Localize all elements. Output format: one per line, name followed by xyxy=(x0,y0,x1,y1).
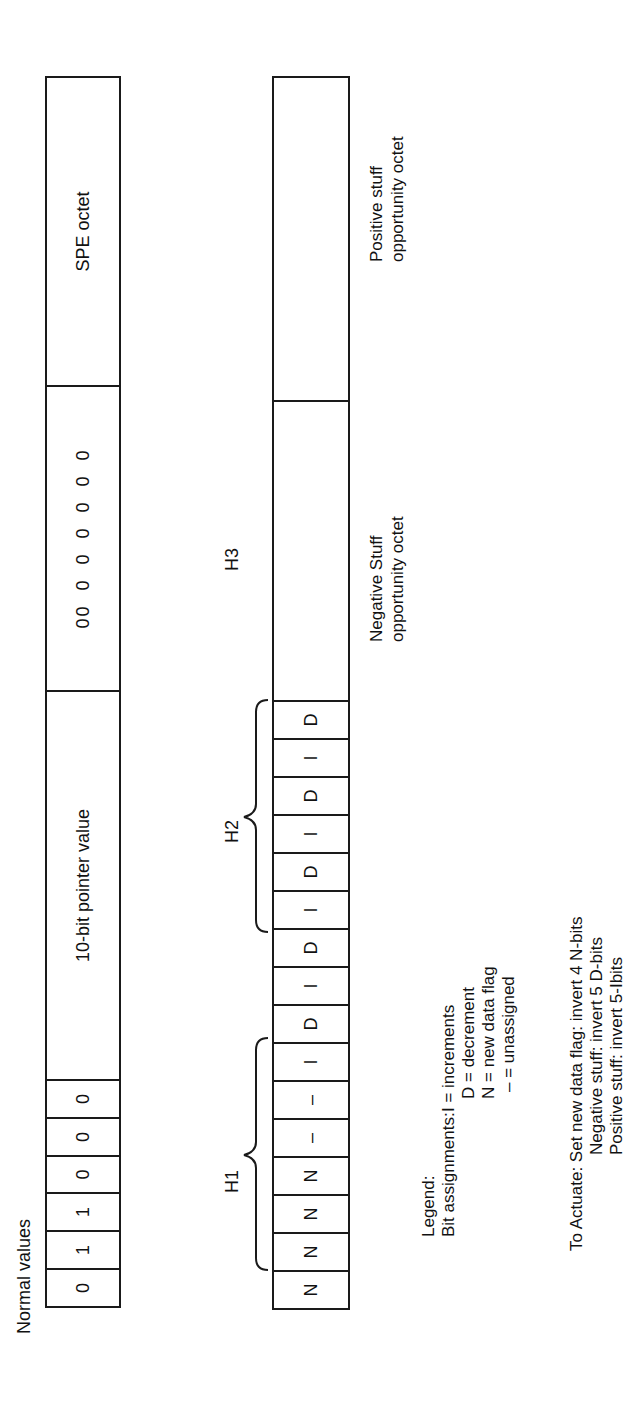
bit-cell: D xyxy=(274,700,348,738)
bit-cell: I xyxy=(274,738,348,776)
h2-brace-icon xyxy=(240,694,270,934)
bit-cell: I xyxy=(274,890,348,928)
legend-item: I = increments xyxy=(438,1005,459,1112)
bit-cell: D xyxy=(274,928,348,966)
legend-item: N = new data flag xyxy=(478,966,499,1099)
h1-h2-h3-row: N N N N – – I D I D I D I D I D xyxy=(272,76,350,1310)
zeros-cell: 00 0 0 0 0 0 0 xyxy=(47,385,119,690)
bit-cell: I xyxy=(274,814,348,852)
positive-stuff-label: Positive stuff opportunity octet xyxy=(366,136,408,262)
bit-cell: N xyxy=(274,1156,348,1194)
bit-cell: D xyxy=(274,1004,348,1042)
legend-item: – = unassigned xyxy=(498,976,519,1092)
negative-stuff-label: Negative Stuff opportunity octet xyxy=(366,516,408,642)
positive-stuff-cell xyxy=(274,78,348,400)
legend-bit-assignments: Bit assignments: xyxy=(438,1112,459,1237)
bit-cell: D xyxy=(274,776,348,814)
bit-cell: 0 xyxy=(47,1268,119,1306)
bit-cell: D xyxy=(274,852,348,890)
legend-item: D = decrement xyxy=(458,987,479,1099)
bit-cell: N xyxy=(274,1232,348,1270)
actuate-line-2: Negative stuff: invert 5 D-bits xyxy=(586,937,607,1155)
bit-cell: 1 xyxy=(47,1230,119,1268)
bit-cell: I xyxy=(274,966,348,1004)
negative-stuff-cell xyxy=(274,400,348,700)
bit-cell: 0 xyxy=(47,1117,119,1155)
h3-label: H3 xyxy=(222,548,243,571)
actuate-line-1: To Actuate: Set new data flag: invert 4 … xyxy=(566,916,587,1251)
bit-cell: – xyxy=(274,1118,348,1156)
legend-title: Legend: xyxy=(418,1176,439,1237)
pointer-value-cell: 10-bit pointer value xyxy=(47,690,119,1079)
bit-cell: 0 xyxy=(47,1155,119,1192)
bit-cell: I xyxy=(274,1042,348,1080)
h1-brace-icon xyxy=(240,1032,270,1272)
pointer-bit-diagram: Normal values 0 1 1 0 0 0 10-bit pointer… xyxy=(0,0,639,1417)
normal-values-row: 0 1 1 0 0 0 10-bit pointer value 00 0 0 … xyxy=(45,76,121,1308)
spe-octet-cell: SPE octet xyxy=(47,78,119,385)
bit-cell: 1 xyxy=(47,1192,119,1230)
normal-values-label: Normal values xyxy=(14,1219,35,1334)
bit-cell: 0 xyxy=(47,1079,119,1117)
bit-cell: N xyxy=(274,1270,348,1308)
actuate-line-3: Positive stuff: invert 5-Ibits xyxy=(606,957,627,1155)
bit-cell: – xyxy=(274,1080,348,1118)
bit-cell: N xyxy=(274,1194,348,1232)
